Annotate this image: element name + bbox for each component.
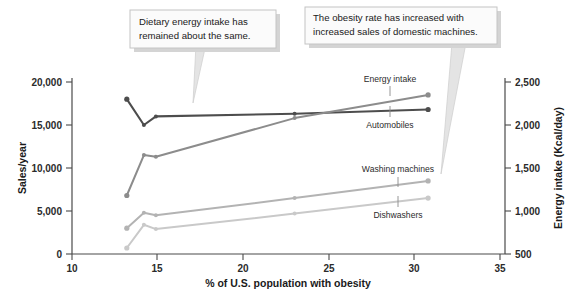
y-tick-5000: 5,000 — [37, 206, 62, 217]
data-point — [154, 227, 158, 231]
series-label-dishwashers: Dishwashers — [373, 210, 422, 220]
callout-energy-intake-line1: Dietary energy intake has — [139, 16, 248, 27]
data-point — [154, 213, 158, 217]
x-tick-30: 30 — [408, 263, 420, 274]
data-point — [142, 211, 146, 215]
y-tick-20000: 20,000 — [31, 77, 62, 88]
data-point — [124, 193, 129, 198]
data-point — [293, 212, 297, 216]
data-point — [293, 112, 297, 116]
y2-tick-2500: 2,500 — [515, 77, 540, 88]
y2-axis-title: Energy intake (Kcal/day) — [552, 107, 564, 229]
x-tick-35: 35 — [494, 263, 506, 274]
y-tick-10000: 10,000 — [31, 163, 62, 174]
data-point — [124, 226, 129, 231]
data-point — [426, 107, 431, 112]
y-axis-title: Sales/year — [16, 142, 28, 194]
y-tick-0: 0 — [56, 249, 62, 260]
data-point — [426, 92, 431, 97]
obesity-sales-line-chart: 20,000 15,000 10,000 5,000 0 Sales/year … — [0, 0, 571, 290]
series-label-energy-intake: Energy intake — [364, 74, 417, 84]
x-tick-10: 10 — [66, 263, 78, 274]
y2-tick-2000: 2,000 — [515, 120, 540, 131]
data-point — [154, 155, 158, 159]
data-point — [124, 245, 129, 250]
data-point — [293, 196, 297, 200]
x-tick-25: 25 — [323, 263, 335, 274]
y-tick-15000: 15,000 — [31, 120, 62, 131]
y2-tick-1500: 1,500 — [515, 163, 540, 174]
series-label-washing-machines: Washing machines — [362, 164, 434, 174]
data-point — [142, 153, 146, 157]
callout-obesity-rate-line2: increased sales of domestic machines. — [313, 26, 478, 37]
x-tick-15: 15 — [151, 263, 163, 274]
data-point — [154, 114, 158, 118]
data-point — [142, 223, 146, 227]
series-label-automobiles: Automobiles — [366, 120, 413, 130]
data-point — [124, 97, 129, 102]
data-point — [426, 196, 431, 201]
y2-tick-500: 500 — [515, 249, 532, 260]
data-point — [142, 123, 146, 127]
callout-obesity-rate-line1: The obesity rate has increased with — [313, 12, 464, 23]
x-axis-title: % of U.S. population with obesity — [205, 277, 371, 289]
data-point — [426, 178, 431, 183]
data-point — [293, 116, 297, 120]
x-tick-20: 20 — [237, 263, 249, 274]
callout-energy-intake-line2: remained about the same. — [139, 30, 250, 41]
y2-tick-1000: 1,000 — [515, 206, 540, 217]
